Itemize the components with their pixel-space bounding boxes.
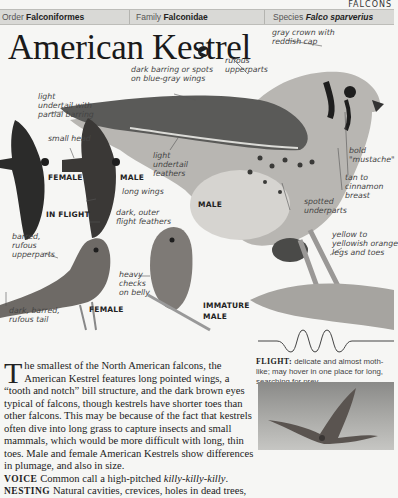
voice-text: Common call a high-pitched xyxy=(40,473,164,484)
label-line: heavy xyxy=(119,270,150,279)
label-line: light xyxy=(38,92,94,101)
label-line: dark, barred, xyxy=(9,306,60,315)
label-long-wings: long wings xyxy=(122,187,164,196)
label-light-undertail-feathers: light undertail feathers xyxy=(153,151,188,178)
label-gray-crown: gray crown with reddish cap xyxy=(272,28,335,46)
caption-line: MALE xyxy=(203,311,250,322)
flight-pattern-wave xyxy=(258,330,394,352)
label-dark-tail: dark, barred, rufous tail xyxy=(9,306,60,324)
label-line: spotted xyxy=(304,197,347,206)
label-line: reddish cap xyxy=(272,37,335,46)
caption-immature-male: IMMATURE MALE xyxy=(203,300,250,322)
label-line: rufous xyxy=(12,241,55,250)
label-spotted-underparts: spotted underparts xyxy=(304,197,347,215)
drop-cap: T xyxy=(4,361,22,385)
label-line: dark, outer xyxy=(116,208,171,217)
label-line: dark barring or spots xyxy=(131,65,213,74)
label-line: bold xyxy=(349,146,395,155)
immature-male-illustration xyxy=(148,227,210,330)
flight-label: FLIGHT: xyxy=(256,357,292,366)
label-line: barred, xyxy=(12,232,55,241)
caption-in-flight: IN FLIGHT xyxy=(46,210,90,219)
flight-female-illustration xyxy=(0,120,49,240)
kestrel-flying-icon xyxy=(258,382,394,450)
label-line: on belly xyxy=(119,288,150,297)
caption-male: MALE xyxy=(198,200,222,209)
label-line: undertail xyxy=(153,160,188,169)
voice-end: . xyxy=(225,473,228,484)
label-line: upperparts xyxy=(12,250,55,259)
description-paragraph: he smallest of the North American falcon… xyxy=(4,360,256,473)
label-line: cinnamon xyxy=(345,182,383,191)
label-line: "mustache" xyxy=(349,155,395,164)
label-line: breast xyxy=(345,191,383,200)
label-line: underparts xyxy=(304,206,347,215)
label-heavy-checks: heavy checks on belly xyxy=(119,270,150,297)
label-line: rufous xyxy=(225,56,268,65)
label-line: checks xyxy=(119,279,150,288)
nesting-label: NESTING xyxy=(4,486,50,496)
label-barred-rufous: barred, rufous upperparts xyxy=(12,232,55,259)
label-tan-breast: tan to cinnamon breast xyxy=(345,173,383,200)
label-small-head: small head xyxy=(48,134,91,143)
label-bold-mustache: bold "mustache" xyxy=(349,146,395,164)
label-line: gray crown with xyxy=(272,28,335,37)
voice-line: VOICE Common call a high-pitched killy-k… xyxy=(4,473,256,486)
label-line: upperparts xyxy=(225,65,268,74)
label-line: on blue-gray wings xyxy=(131,74,213,83)
flight-photo xyxy=(258,382,394,450)
label-line: legs and toes xyxy=(332,248,398,257)
species-description: T he smallest of the North American falc… xyxy=(4,360,256,498)
voice-label: VOICE xyxy=(4,474,37,484)
label-light-undertail-partial: light undertail with partial barring xyxy=(38,92,94,119)
label-line: yellowish orange xyxy=(332,239,398,248)
label-line: partial barring xyxy=(38,110,94,119)
label-line: rufous tail xyxy=(9,315,60,324)
label-dark-outer: dark, outer flight feathers xyxy=(116,208,171,226)
label-line: tan to xyxy=(345,173,383,182)
voice-call: killy-killy-killy xyxy=(164,473,226,484)
caption-female: FEMALE xyxy=(89,305,124,314)
caption-flight-male: MALE xyxy=(120,173,144,182)
label-line: light xyxy=(153,151,188,160)
label-dark-barring: dark barring or spots on blue-gray wings xyxy=(131,65,213,83)
label-line: yellow to xyxy=(332,230,398,239)
caption-line: IMMATURE xyxy=(203,300,250,311)
nesting-line: NESTING Natural cavities, crevices, hole… xyxy=(4,485,256,498)
label-line: feathers xyxy=(153,169,188,178)
caption-flight-female: FEMALE xyxy=(48,173,83,182)
nesting-text: Natural cavities, crevices, holes in dea… xyxy=(53,485,246,496)
label-yellow-legs: yellow to yellowish orange legs and toes xyxy=(332,230,398,257)
label-rufous-upperparts: rufous upperparts xyxy=(225,56,268,74)
label-line: flight feathers xyxy=(116,217,171,226)
label-line: undertail with xyxy=(38,101,94,110)
